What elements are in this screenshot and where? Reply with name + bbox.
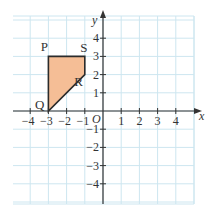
coordinate-diagram: x y O −4−3−2−112344321−1−2−3−4 PSRQ xyxy=(0,0,208,216)
x-axis-label: x xyxy=(198,109,205,123)
x-tick-label: 2 xyxy=(136,114,142,128)
x-tick-label: −3 xyxy=(40,114,53,128)
y-axis-label: y xyxy=(91,13,98,27)
x-tick-label: −2 xyxy=(58,114,71,128)
vertex-label-r: R xyxy=(74,74,83,89)
y-axis-arrow-icon xyxy=(100,10,106,18)
vertex-label-p: P xyxy=(41,39,48,54)
axis-labels: x y O xyxy=(91,13,205,126)
x-tick-label: 3 xyxy=(155,114,161,128)
y-tick-label: −1 xyxy=(86,122,99,136)
y-tick-label: 2 xyxy=(93,68,99,82)
vertex-label-q: Q xyxy=(35,97,45,112)
y-tick-label: −2 xyxy=(86,140,99,154)
x-tick-label: 1 xyxy=(118,114,124,128)
y-tick-label: 1 xyxy=(93,86,99,100)
y-tick-label: −3 xyxy=(86,159,99,173)
vertex-label-s: S xyxy=(80,40,87,55)
y-tick-label: 3 xyxy=(93,49,99,63)
x-tick-label: −4 xyxy=(22,114,35,128)
y-tick-label: −4 xyxy=(86,177,99,191)
y-tick-label: 4 xyxy=(93,31,99,45)
x-tick-label: 4 xyxy=(173,114,179,128)
